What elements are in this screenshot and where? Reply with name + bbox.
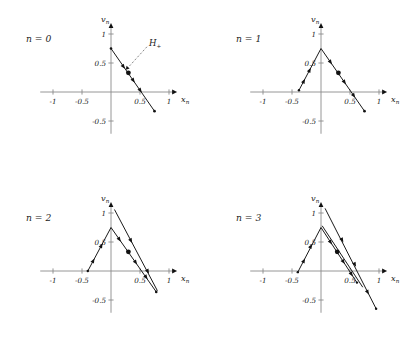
x-tick-label: -0.5: [75, 276, 89, 285]
y-tick-label: 1: [101, 209, 106, 218]
y-tick-label: -0.5: [302, 296, 316, 305]
x-axis-label: xn: [391, 94, 400, 105]
data-point: [363, 110, 366, 113]
direction-arrow: [328, 59, 332, 64]
y-tick-label: -0.5: [92, 117, 106, 126]
x-tick-label: -1: [259, 276, 266, 285]
y-tick-label: -0.5: [302, 117, 316, 126]
panel-n1: -1-0.50.5110.5-0.5xnvnn = 1: [210, 0, 420, 179]
x-axis-label: xn: [181, 273, 190, 284]
data-point: [297, 271, 299, 273]
direction-arrow: [342, 79, 346, 84]
panel-label: n = 1: [236, 33, 261, 44]
panel-n2: -1-0.50.5110.5-0.5xnvnn = 2: [0, 179, 210, 358]
x-tick-label: 1: [167, 276, 172, 285]
x-axis-arrowhead: [382, 90, 387, 95]
direction-arrow: [91, 258, 95, 263]
x-tick-label: -0.5: [285, 276, 299, 285]
y-tick-label: 1: [101, 30, 106, 39]
direction-arrow: [117, 237, 121, 242]
y-axis-arrowhead: [319, 202, 324, 207]
direction-arrow: [121, 64, 125, 69]
panel-label: n = 3: [236, 212, 261, 223]
data-point: [87, 270, 89, 272]
direction-arrow: [301, 79, 305, 84]
panel-n3: -1-0.50.5110.5-0.5xnvnn = 3: [210, 179, 420, 358]
x-tick-label: -1: [49, 276, 56, 285]
data-point: [298, 89, 300, 91]
data-point: [126, 249, 131, 254]
x-tick-label: 0.5: [344, 97, 356, 106]
panel-n0-plot: -1-0.50.5110.5-0.5xnvnn = 0H+: [0, 0, 210, 179]
data-point: [336, 70, 341, 75]
x-tick-label: -1: [259, 97, 266, 106]
data-point: [153, 110, 156, 113]
y-axis-arrowhead: [109, 202, 114, 207]
data-point: [126, 70, 131, 75]
x-tick-label: 1: [377, 97, 382, 106]
direction-arrow: [301, 258, 305, 263]
direction-arrow: [365, 289, 369, 294]
x-axis-label: xn: [391, 273, 400, 284]
annotation-leader-line: [130, 47, 147, 66]
panel-n2-plot: -1-0.50.5110.5-0.5xnvnn = 2: [0, 179, 210, 358]
y-tick-label: 0.5: [95, 59, 107, 68]
y-axis-arrowhead: [109, 23, 114, 28]
data-point: [375, 308, 377, 310]
x-axis-arrowhead: [172, 90, 177, 95]
data-point: [155, 291, 158, 294]
panel-n3-plot: -1-0.50.5110.5-0.5xnvnn = 3: [210, 179, 420, 358]
panel-label: n = 0: [26, 33, 51, 44]
y-axis-label: vn: [101, 14, 110, 25]
y-axis-label: vn: [101, 193, 110, 204]
figure-container: -1-0.50.5110.5-0.5xnvnn = 0H+-1-0.50.511…: [0, 0, 420, 359]
y-tick-label: 1: [311, 30, 316, 39]
trajectory-ascending-branch: [88, 228, 111, 272]
direction-arrow: [128, 238, 132, 243]
x-tick-label: 0.5: [134, 97, 146, 106]
annotation-label-h-plus: H+: [148, 38, 162, 49]
x-tick-label: -0.5: [285, 97, 299, 106]
x-tick-label: -1: [49, 97, 56, 106]
data-point: [356, 281, 358, 283]
data-point: [110, 47, 113, 50]
x-tick-label: -0.5: [75, 97, 89, 106]
y-tick-label: -0.5: [92, 296, 106, 305]
x-axis-arrowhead: [172, 269, 177, 274]
trajectory-ascending-branch: [298, 228, 321, 273]
x-axis-label: xn: [181, 94, 190, 105]
y-axis-label: vn: [311, 14, 320, 25]
annotation-arrowhead: [126, 66, 130, 70]
y-axis-label: vn: [311, 193, 320, 204]
trajectory-descending-branch: [321, 49, 365, 112]
x-tick-label: 1: [167, 97, 172, 106]
x-tick-label: 0.5: [344, 276, 356, 285]
x-tick-label: 1: [377, 276, 382, 285]
direction-arrow: [307, 68, 311, 73]
trajectory-descending-branch-mid: [322, 226, 363, 287]
panel-n1-plot: -1-0.50.5110.5-0.5xnvnn = 1: [210, 0, 420, 179]
data-point: [335, 249, 340, 254]
x-axis-arrowhead: [382, 269, 387, 274]
panel-label: n = 2: [26, 212, 51, 223]
y-axis-arrowhead: [319, 23, 324, 28]
panel-n0: -1-0.50.5110.5-0.5xnvnn = 0H+: [0, 0, 210, 179]
y-tick-label: 1: [311, 209, 316, 218]
